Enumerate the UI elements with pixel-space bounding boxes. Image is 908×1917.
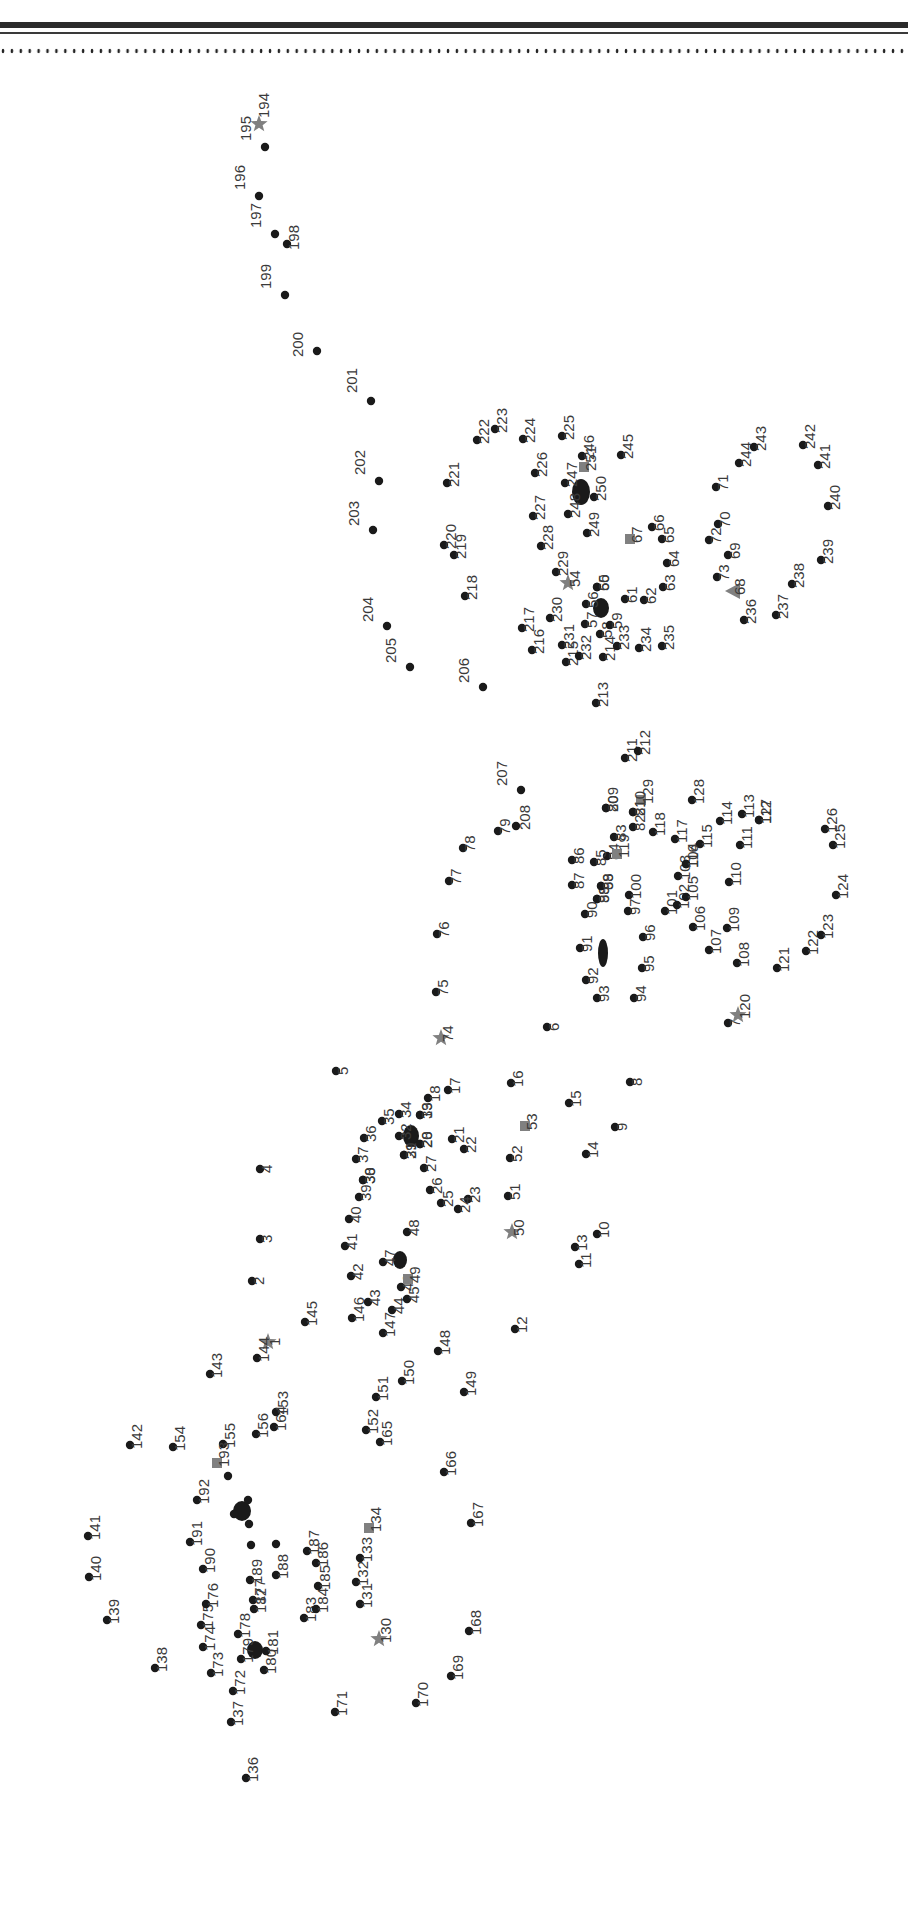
puzzle-point: 63 (659, 574, 678, 591)
point-label: 165 (378, 1421, 395, 1446)
puzzle-point: 53 (520, 1113, 540, 1131)
point-label: 3 (258, 1235, 275, 1243)
point-label: 248 (566, 493, 583, 518)
point-label: 106 (691, 906, 708, 931)
puzzle-point: 96 (639, 924, 658, 941)
puzzle-point: 209 (602, 787, 621, 812)
point-label: 251 (582, 446, 599, 471)
point-label: 75 (434, 979, 451, 996)
point-label: 132 (354, 1561, 371, 1586)
point-label: 50 (510, 1219, 527, 1236)
puzzle-point: 56 (582, 591, 601, 608)
puzzle-point: 150 (398, 1360, 417, 1385)
puzzle-point: 229 (552, 551, 571, 576)
puzzle-point: 111 (736, 826, 755, 849)
point-label: 126 (823, 808, 840, 833)
point-label: 118 (651, 812, 668, 836)
puzzle-point: 27 (420, 1155, 439, 1172)
puzzle-point: 147 (379, 1312, 398, 1337)
puzzle-point: 50 (503, 1219, 527, 1239)
point-label: 2 (250, 1277, 267, 1285)
puzzle-point: 189 (246, 1559, 265, 1584)
point-label: 133 (358, 1537, 375, 1562)
puzzle-point: 33 (416, 1102, 435, 1119)
puzzle-point: 249 (583, 512, 602, 537)
puzzle-point: 204 (359, 597, 391, 630)
point-label: 205 (382, 638, 399, 663)
point-label: 91 (578, 935, 595, 952)
dot-icon (271, 230, 279, 238)
point-label: 49 (406, 1266, 423, 1283)
point-label: 142 (128, 1424, 145, 1449)
puzzle-point: 228 (537, 525, 556, 550)
puzzle-point: 190 (199, 1548, 218, 1573)
point-label: 134 (367, 1507, 384, 1532)
point-label: 240 (826, 485, 843, 510)
point-label: 234 (637, 627, 654, 652)
puzzle-page: 1234567891011121314151617181920212223242… (0, 0, 908, 1917)
point-label: 14 (584, 1141, 601, 1158)
puzzle-point: 70 (714, 511, 733, 528)
puzzle-point: 141 (84, 1515, 103, 1540)
point-label: 228 (539, 525, 556, 550)
puzzle-point: 235 (658, 625, 677, 650)
puzzle-point: 49 (403, 1266, 423, 1284)
dot-icon (281, 291, 289, 299)
puzzle-point: 182 (250, 1588, 269, 1613)
unlabeled-dot (245, 1520, 253, 1528)
point-label: 218 (463, 575, 480, 600)
puzzle-point: 128 (688, 779, 707, 804)
point-label: 130 (377, 1618, 394, 1643)
point-label: 166 (442, 1451, 459, 1476)
puzzle-point: 74 (432, 1025, 456, 1045)
point-label: 145 (303, 1301, 320, 1326)
point-label: 176 (204, 1583, 221, 1608)
puzzle-point: 188 (272, 1554, 291, 1579)
puzzle-point: 206 (455, 658, 487, 691)
point-label: 24 (456, 1196, 473, 1213)
point-label: 64 (665, 550, 682, 567)
puzzle-point: 24 (454, 1196, 473, 1213)
point-label: 250 (592, 476, 609, 501)
puzzle-point: 247 (561, 462, 580, 487)
puzzle-point: 165 (376, 1421, 395, 1446)
point-label: 198 (285, 225, 302, 250)
dot-icon (517, 786, 525, 794)
point-label: 41 (343, 1233, 360, 1250)
unlabeled-dot (244, 1496, 252, 1504)
point-label: 113 (740, 794, 757, 818)
puzzle-point: 169 (447, 1655, 466, 1680)
puzzle-point: 168 (465, 1610, 484, 1635)
point-label: 79 (496, 818, 513, 835)
puzzle-point: 222 (473, 419, 492, 444)
puzzle-point: 232 (575, 635, 594, 660)
puzzle-point: 167 (467, 1502, 486, 1527)
dot-icon (313, 347, 321, 355)
point-label: 73 (715, 564, 732, 581)
point-label: 99 (599, 873, 616, 890)
point-label: 42 (349, 1263, 366, 1280)
point-label: 170 (414, 1682, 431, 1707)
puzzle-point: 245 (617, 434, 636, 459)
point-label: 9 (613, 1123, 630, 1131)
puzzle-point: 42 (347, 1263, 366, 1280)
puzzle-point: 6 (543, 1023, 562, 1032)
puzzle-point: 78 (459, 835, 478, 852)
puzzle-point: 127 (755, 799, 774, 824)
puzzle-point: 99 (597, 873, 616, 890)
puzzle-point: 93 (593, 985, 612, 1002)
puzzle-point: 145 (301, 1301, 320, 1326)
dot-icon (375, 477, 383, 485)
puzzle-point: 137 (227, 1701, 246, 1726)
point-label: 209 (604, 787, 621, 812)
puzzle-point: 32 (395, 1123, 414, 1140)
puzzle-point: 76 (433, 921, 452, 938)
point-label: 210 (631, 791, 648, 816)
puzzle-point: 48 (403, 1219, 422, 1236)
puzzle-point: 35 (378, 1108, 397, 1125)
point-label: 213 (594, 682, 611, 707)
point-label: 227 (531, 495, 548, 520)
puzzle-point: 9 (611, 1123, 630, 1132)
point-label: 33 (418, 1102, 435, 1119)
point-label: 95 (640, 955, 657, 972)
